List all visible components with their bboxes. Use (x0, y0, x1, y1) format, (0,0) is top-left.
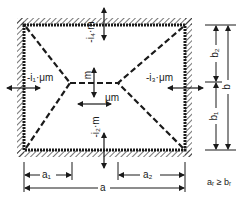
label-right-edge-moment: -i₃·μm (146, 73, 173, 83)
label-top-edge-moment: -i₄·m (86, 21, 96, 42)
yield-line-bottom-left (26, 83, 70, 148)
label-bottom-edge-moment: -i₂·m (91, 116, 101, 137)
dimension-lines (24, 25, 236, 192)
yield-line-diagram (0, 0, 241, 198)
moment-arrows (7, 8, 203, 168)
label-dim-b1: b₁ (209, 112, 219, 121)
yield-line-bottom-right (118, 83, 183, 148)
label-center-vertical-moment: m (83, 71, 93, 79)
label-dim-a1: a₁ (42, 170, 51, 180)
label-dim-a2: a₂ (143, 170, 152, 180)
label-left-edge-moment: -i₁·μm (27, 73, 53, 83)
label-dim-a: a (100, 183, 106, 193)
label-dim-b2: b₂ (210, 48, 220, 57)
yield-lines (26, 27, 183, 148)
label-center-horizontal-moment: μm (105, 93, 119, 103)
label-dim-b: b (222, 84, 232, 90)
label-condition: aᵣ ≥ bᵣ (207, 177, 231, 187)
slab-boundary (24, 25, 185, 150)
